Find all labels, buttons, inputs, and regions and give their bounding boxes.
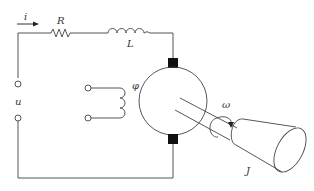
current-arrow [17, 22, 39, 27]
current-label: i [24, 11, 27, 22]
omega-label: ω [222, 99, 230, 110]
armature-circle [139, 67, 207, 135]
inductor-icon [108, 29, 150, 34]
resistor-label: R [56, 15, 65, 26]
load-inertia-cylinder [231, 119, 312, 177]
dc-motor-diagram: i R L u φ ω J [0, 0, 314, 191]
inductor-label: L [126, 38, 134, 49]
inertia-label: J [244, 165, 251, 176]
terminal-top-icon [15, 81, 21, 87]
left-top-wire [18, 33, 48, 78]
resistor-icon [48, 29, 73, 37]
field-winding-icon [85, 85, 125, 121]
voltage-label: u [15, 96, 21, 107]
bottom-return-wire [18, 119, 173, 178]
terminal-bottom-icon [15, 115, 21, 121]
flux-label: φ [132, 80, 139, 91]
wire-l-to-brush [150, 33, 173, 60]
top-brush-icon [168, 58, 178, 68]
bottom-brush-icon [168, 134, 178, 144]
